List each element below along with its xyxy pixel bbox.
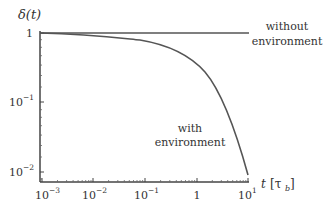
y-tick-label: 10 −2 <box>9 163 34 179</box>
svg-text:−2: −2 <box>23 163 34 172</box>
x-tick-label: 10 1 <box>238 186 257 202</box>
svg-text:t: t <box>261 177 266 191</box>
svg-text:10: 10 <box>238 189 252 202</box>
annotation-with-environment: with environment <box>155 122 226 149</box>
svg-text:environment: environment <box>155 136 226 149</box>
svg-text:10: 10 <box>9 96 23 109</box>
svg-text:−3: −3 <box>49 186 60 195</box>
series-with-environment <box>40 33 248 175</box>
svg-text:10: 10 <box>9 166 23 179</box>
svg-text:with: with <box>178 122 202 135</box>
x-tick-label: 10 −1 <box>134 186 159 202</box>
svg-text:−1: −1 <box>148 186 159 195</box>
x-tick-label: 10 −3 <box>35 186 60 202</box>
svg-text:10: 10 <box>35 189 49 202</box>
svg-text:−1: −1 <box>23 93 34 102</box>
svg-text:environment: environment <box>252 35 323 48</box>
svg-text:]: ] <box>290 177 295 191</box>
y-axis-label: δ(t) <box>18 7 41 22</box>
x-tick-label: 10 −2 <box>82 186 107 202</box>
y-tick-label: 1 <box>26 27 33 40</box>
y-tick-label: 10 −1 <box>9 93 34 109</box>
svg-text:−2: −2 <box>96 186 107 195</box>
svg-text:10: 10 <box>82 189 96 202</box>
chart: δ(t) 1 10 −1 10 −2 10 −3 10 −2 10 −1 1 1… <box>0 0 331 209</box>
x-axis-label: t [τ b ] <box>261 177 295 193</box>
annotation-without-environment: without environment <box>252 20 323 48</box>
svg-text:10: 10 <box>134 189 148 202</box>
svg-text:without: without <box>266 20 309 33</box>
svg-text:1: 1 <box>252 186 257 195</box>
svg-text:[τ: [τ <box>270 177 282 191</box>
x-tick-label: 1 <box>194 189 201 202</box>
